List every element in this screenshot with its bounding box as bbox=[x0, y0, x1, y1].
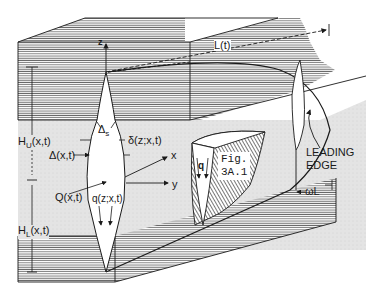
total-flow-label: Q(x,t) bbox=[55, 192, 83, 203]
y-axis-label: y bbox=[172, 179, 178, 190]
omega-l-label: ωL bbox=[305, 186, 320, 197]
width-profile-label: δ(z;x,t) bbox=[128, 135, 162, 146]
lower-height-label: HL(x,t) bbox=[18, 225, 49, 239]
leading-edge-label-line2: EDGE bbox=[306, 160, 337, 171]
local-flow-label: q(z;x,t) bbox=[92, 194, 123, 204]
figure-id-line1: Fig. bbox=[221, 153, 247, 166]
x-axis-label: x bbox=[171, 150, 177, 161]
upper-height-label: HU(x,t) bbox=[18, 136, 51, 150]
element-flow-label: q bbox=[198, 161, 204, 171]
z-axis-label: z bbox=[98, 38, 103, 47]
figure-id-box: Fig. 3A.1 bbox=[218, 152, 250, 180]
delta-s-label: Δs bbox=[98, 124, 109, 138]
length-label: L(t) bbox=[214, 40, 231, 51]
max-width-label: Δ(x,t) bbox=[49, 150, 75, 161]
upper-layer-block bbox=[0, 0, 366, 120]
leading-edge-label-line1: LEADING bbox=[306, 147, 354, 158]
figure-id-line2: 3A.1 bbox=[221, 166, 247, 179]
